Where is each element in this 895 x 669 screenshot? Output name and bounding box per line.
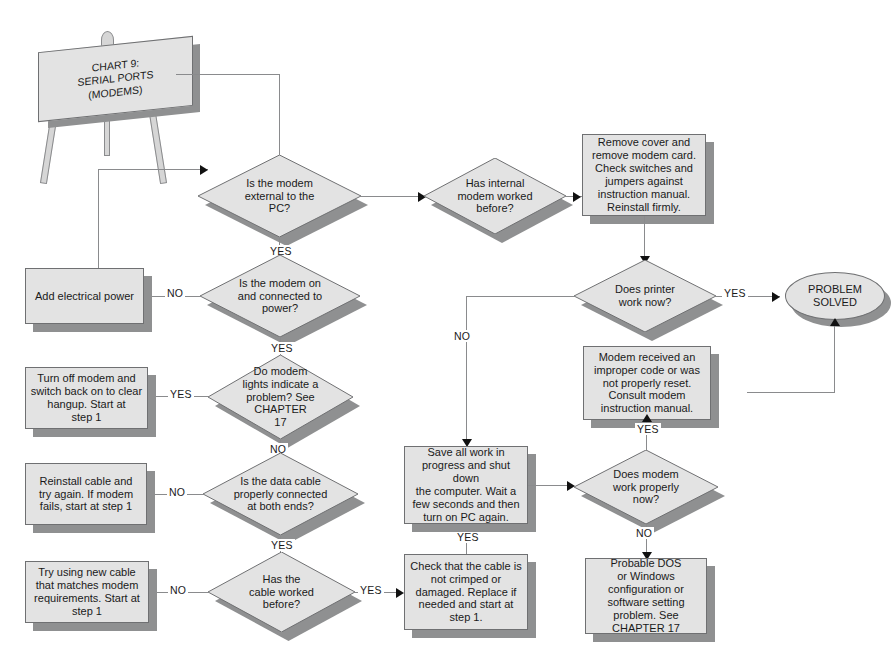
connector-remove-to-printer [644,216,645,261]
decision-internal-modem-worked[interactable]: Has internal modem worked before? [424,158,566,234]
arrow-into-modem-code-bottom [642,414,652,422]
connector-printer-no-down [466,296,467,444]
label-no-datacable: NO [167,486,187,498]
process-try-new-cable[interactable]: Try using new cable that matches modem r… [25,561,149,623]
decision-modem-work-properly-label: Does modem work properly now? [574,450,718,524]
process-save-work-shutdown-label: Save all work in progress and shut down … [404,446,528,524]
decision-printer-work-now[interactable]: Does printer work now? [574,260,716,332]
terminator-problem-solved[interactable]: PROBLEM SOLVED [785,272,885,320]
label-yes-checkcable: YES [455,531,481,543]
process-remove-cover[interactable]: Remove cover and remove modem card. Chec… [582,134,706,216]
label-yes-lights: YES [168,388,194,400]
terminator-problem-solved-label: PROBLEM SOLVED [785,272,885,320]
process-turn-off-modem-label: Turn off modem and switch back on to cle… [25,367,148,429]
label-no-modemproperly: NO [634,527,654,539]
decision-modem-external[interactable]: Is the modem external to the PC? [198,155,361,237]
process-add-electrical-power-label: Add electrical power [25,268,144,324]
label-no-cableworked: NO [168,584,188,596]
arrow-into-problem-solved-bottom [830,318,840,326]
label-yes-printer: YES [722,287,748,299]
decision-modem-work-properly[interactable]: Does modem work properly now? [574,450,718,524]
process-probable-dos-windows-label: Probable DOS or Windows configuration or… [585,558,707,634]
easel-leg-right [148,106,167,184]
label-yes-modemon: YES [269,342,295,354]
decision-modem-lights[interactable]: Do modem lights indicate a problem? See … [208,355,353,439]
connector-printer-no-left [466,296,574,297]
process-reinstall-cable[interactable]: Reinstall cable and try again. If modem … [25,463,147,525]
process-remove-cover-label: Remove cover and remove modem card. Chec… [582,134,706,216]
connector-modemcode-right [747,392,835,393]
process-check-cable-crimped-label: Check that the cable is not crimped or d… [404,554,528,630]
process-modem-improper-code-label: Modem received an improper code or was n… [583,346,711,420]
process-modem-improper-code[interactable]: Modem received an improper code or was n… [583,346,711,420]
connector-easel-right [176,74,280,75]
decision-modem-external-label: Is the modem external to the PC? [198,155,361,237]
label-yes-datacable: YES [269,539,295,551]
process-add-electrical-power[interactable]: Add electrical power [25,268,144,324]
label-no-printer: NO [452,330,472,342]
label-no-modemon: NO [165,287,185,299]
process-check-cable-crimped[interactable]: Check that the cable is not crimped or d… [404,554,528,630]
decision-cable-worked-before-label: Has the cable worked before? [208,552,355,632]
connector-modemcode-up [834,325,835,392]
arrow-into-remove-cover [573,192,581,202]
connector-external-to-internal [361,196,424,197]
connector-loopback-vertical [98,169,99,270]
decision-data-cable-connected[interactable]: Is the data cable properly connected at … [203,453,358,535]
decision-data-cable-connected-label: Is the data cable properly connected at … [203,453,358,535]
decision-internal-modem-worked-label: Has internal modem worked before? [424,158,566,234]
flowchart-canvas: CHART 9: SERIAL PORTS (MODEMS) Is the mo… [0,0,895,669]
process-reinstall-cable-label: Reinstall cable and try again. If modem … [25,463,147,525]
label-yes-modemproperly: YES [635,423,661,435]
chart-title-easel: CHART 9: SERIAL PORTS (MODEMS) [28,34,213,189]
arrow-into-problem-solved [772,292,780,302]
decision-modem-lights-label: Do modem lights indicate a problem? See … [208,355,353,439]
label-yes-cableworked: YES [358,584,384,596]
decision-modem-on-power-label: Is the modem on and connected to power? [200,255,360,337]
process-probable-dos-windows[interactable]: Probable DOS or Windows configuration or… [585,558,707,634]
process-try-new-cable-label: Try using new cable that matches modem r… [25,561,149,623]
decision-cable-worked-before[interactable]: Has the cable worked before? [208,552,355,632]
connector-loopback-top [98,169,208,170]
process-turn-off-modem[interactable]: Turn off modem and switch back on to cle… [25,367,148,429]
arrow-into-check-cable [396,588,404,598]
connector-easel-down [279,74,280,162]
process-save-work-shutdown[interactable]: Save all work in progress and shut down … [404,446,528,524]
decision-modem-on-power[interactable]: Is the modem on and connected to power? [200,255,360,337]
decision-printer-work-now-label: Does printer work now? [574,260,716,332]
